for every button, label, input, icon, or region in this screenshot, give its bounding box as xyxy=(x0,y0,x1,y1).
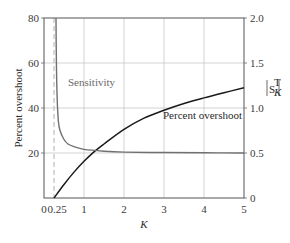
x-axis-ticks: 00.2512345 xyxy=(41,203,247,215)
x-axis-label: K xyxy=(139,218,148,230)
x-tick-label: 0 xyxy=(41,203,47,215)
percent-overshoot-curve xyxy=(54,88,244,198)
x-tick-label: 0.25 xyxy=(47,203,67,215)
y-axis-label: Percent overshoot xyxy=(12,68,24,147)
overshoot-annotation: Percent overshoot xyxy=(163,109,242,121)
y2-axis-label: S T K xyxy=(267,76,282,98)
y-tick-label: 80 xyxy=(28,12,40,24)
x-tick-label: 3 xyxy=(161,203,167,215)
y-axis-ticks: 20406080 xyxy=(28,12,44,159)
y2-axis-ticks: 00.51.01.52.0 xyxy=(244,12,264,204)
x-tick-label: 1 xyxy=(81,203,87,215)
y2-tick-label: 1.0 xyxy=(250,102,264,114)
y-tick-label: 20 xyxy=(28,147,40,159)
y-tick-label: 40 xyxy=(28,102,40,114)
x-tick-label: 5 xyxy=(241,203,247,215)
chart: 00.2512345 20406080 00.51.01.52.0 Percen… xyxy=(0,0,290,243)
y2-label-sub: K xyxy=(273,86,282,98)
y2-tick-label: 0.5 xyxy=(250,147,264,159)
y-tick-label: 60 xyxy=(28,57,40,69)
sensitivity-annotation: Sensitivity xyxy=(68,76,116,88)
x-tick-label: 4 xyxy=(201,203,207,215)
x-tick-label: 2 xyxy=(121,203,127,215)
y2-tick-label: 1.5 xyxy=(250,57,264,69)
y2-tick-label: 2.0 xyxy=(250,12,264,24)
y2-tick-label: 0 xyxy=(250,192,256,204)
